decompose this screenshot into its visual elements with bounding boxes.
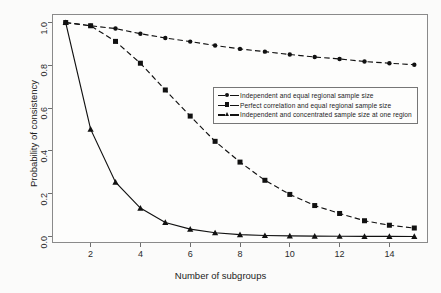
data-point — [262, 178, 267, 183]
data-point — [162, 219, 168, 225]
x-axis-tick-mark — [389, 243, 390, 247]
data-point — [337, 211, 342, 216]
x-axis-tick-label: 14 — [374, 249, 404, 259]
data-point — [312, 203, 317, 208]
data-point — [238, 47, 242, 51]
data-point — [412, 63, 416, 67]
data-point — [362, 218, 367, 223]
chart-figure: 0.00.20.40.60.81.0 2468101214 Probabilit… — [0, 0, 441, 293]
y-axis-tick-label: 0.8 — [39, 64, 49, 94]
x-axis-label: Number of subgroups — [0, 270, 441, 281]
x-axis-tick-label: 4 — [125, 249, 155, 259]
data-point — [288, 52, 292, 56]
data-point — [88, 126, 94, 132]
y-axis-tick-label: 0.4 — [39, 150, 49, 180]
data-point — [113, 26, 117, 30]
legend-label: Independent and equal regional sample si… — [240, 92, 374, 99]
y-axis-tick-label: 0.6 — [39, 107, 49, 137]
x-axis-tick-label: 12 — [325, 249, 355, 259]
data-point — [88, 23, 93, 28]
legend-item-perfect-correlation: Perfect correlation and equal regional s… — [218, 101, 412, 111]
legend-label: Perfect correlation and equal regional s… — [240, 102, 391, 109]
legend-marker-circle-icon — [218, 91, 240, 100]
data-point — [188, 39, 192, 43]
data-point — [313, 55, 317, 59]
x-axis-tick-mark — [90, 243, 91, 247]
data-point — [138, 61, 143, 66]
series-line-1 — [66, 23, 415, 228]
data-point — [113, 39, 118, 44]
data-point — [163, 87, 168, 92]
y-axis-tick-label: 0.0 — [39, 236, 49, 266]
legend-marker-triangle-icon — [218, 110, 240, 119]
data-point — [188, 114, 193, 119]
y-axis-tick-label: 1.0 — [39, 22, 49, 52]
legend-item-independent-equal: Independent and equal regional sample si… — [218, 91, 412, 101]
chart-legend: Independent and equal regional sample si… — [213, 87, 418, 124]
data-point — [362, 59, 366, 63]
data-point — [337, 57, 341, 61]
data-point — [163, 36, 167, 40]
data-point — [238, 160, 243, 165]
x-axis-tick-mark — [140, 243, 141, 247]
data-point — [287, 192, 292, 197]
legend-label: Independent and concentrated sample size… — [240, 111, 412, 118]
y-axis-tick-label: 0.2 — [39, 193, 49, 223]
data-point — [138, 31, 142, 35]
x-axis-tick-mark — [190, 243, 191, 247]
x-axis-tick-label: 10 — [275, 249, 305, 259]
data-point — [213, 43, 217, 47]
data-point — [412, 226, 417, 231]
x-axis-tick-label: 8 — [225, 249, 255, 259]
x-axis-tick-mark — [240, 243, 241, 247]
plot-canvas — [52, 14, 428, 243]
data-point — [112, 179, 118, 185]
series-line-2 — [66, 23, 415, 237]
legend-item-independent-concentrated: Independent and concentrated sample size… — [218, 110, 412, 120]
data-point — [263, 49, 267, 53]
y-axis-label: Probability of consistency — [28, 59, 39, 209]
x-axis-tick-mark — [289, 243, 290, 247]
x-axis-tick-label: 2 — [76, 249, 106, 259]
legend-marker-square-icon — [218, 101, 240, 110]
x-axis-tick-mark — [339, 243, 340, 247]
x-axis-tick-label: 6 — [175, 249, 205, 259]
data-point — [387, 223, 392, 228]
data-point — [213, 139, 218, 144]
data-point — [387, 61, 391, 65]
